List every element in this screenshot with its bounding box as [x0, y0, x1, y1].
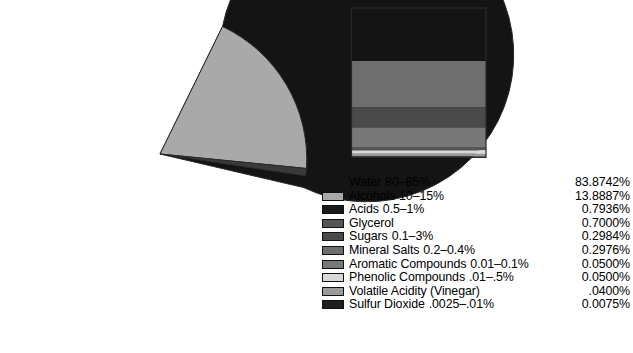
callout-band-volatile-acidity: [352, 154, 487, 157]
callout-detail-box: [352, 8, 487, 157]
legend-row[interactable]: Acids0.5–1% 0.7936%: [322, 203, 632, 217]
legend-value-volatile-acidity: .0400%: [589, 285, 630, 299]
callout-band-glycerol: [352, 61, 487, 108]
legend-value-aromatic-compounds: 0.0500%: [582, 258, 630, 272]
legend-swatch-volatile-acidity: [322, 287, 344, 296]
legend-label-acids: Acids0.5–1%: [349, 203, 424, 217]
legend-row[interactable]: Sulfur Dioxide.0025–.01% 0.0075%: [322, 298, 632, 312]
legend-value-acids: 0.7936%: [582, 203, 630, 217]
legend: Water80–85% 83.8742% Alcohols10–15% 13.8…: [322, 176, 632, 312]
legend-row[interactable]: Phenolic Compounds.01–.5% 0.0500%: [322, 271, 632, 285]
legend-label-alcohols: Alcohols10–15%: [349, 190, 444, 204]
legend-row[interactable]: Mineral Salts0.2–0.4% 0.2976%: [322, 244, 632, 258]
legend-swatch-mineral-salts: [322, 246, 344, 255]
callout-band-aromatic-compounds: [352, 147, 487, 150]
legend-value-phenolic-compounds: 0.0500%: [582, 271, 630, 285]
legend-label-mineral-salts: Mineral Salts0.2–0.4%: [349, 244, 475, 258]
legend-row[interactable]: Aromatic Compounds0.01–0.1% 0.0500%: [322, 258, 632, 272]
legend-row[interactable]: Water80–85% 83.8742%: [322, 176, 632, 190]
legend-label-water: Water80–85%: [349, 176, 430, 190]
legend-label-phenolic-compounds: Phenolic Compounds.01–.5%: [349, 271, 514, 285]
legend-row[interactable]: Alcohols10–15% 13.8887%: [322, 190, 632, 204]
legend-swatch-water: [322, 178, 344, 187]
legend-row[interactable]: Glycerol 0.7000%: [322, 217, 632, 231]
legend-label-aromatic-compounds: Aromatic Compounds0.01–0.1%: [349, 258, 529, 272]
callout-band-mineral-salts: [352, 128, 487, 148]
legend-value-sugars: 0.2984%: [582, 230, 630, 244]
legend-swatch-sulfur-dioxide: [322, 300, 344, 309]
legend-label-volatile-acidity: Volatile Acidity (Vinegar): [349, 285, 484, 299]
legend-value-water: 83.8742%: [575, 176, 630, 190]
legend-row[interactable]: Volatile Acidity (Vinegar) .0400%: [322, 285, 632, 299]
callout-band-phenolic-compounds: [352, 150, 487, 153]
wine-composition-figure: Water80–85% 83.8742% Alcohols10–15% 13.8…: [0, 0, 633, 353]
legend-label-glycerol: Glycerol: [349, 217, 398, 231]
legend-value-glycerol: 0.7000%: [582, 217, 630, 231]
callout-band-acids: [352, 8, 487, 61]
legend-label-sulfur-dioxide: Sulfur Dioxide.0025–.01%: [349, 298, 494, 312]
legend-label-sugars: Sugars0.1–3%: [349, 230, 433, 244]
legend-swatch-aromatic-compounds: [322, 260, 344, 269]
legend-swatch-sugars: [322, 232, 344, 241]
legend-swatch-glycerol: [322, 219, 344, 228]
callout-band-sugars: [352, 108, 487, 128]
legend-swatch-alcohols: [322, 192, 344, 201]
legend-value-mineral-salts: 0.2976%: [582, 244, 630, 258]
legend-swatch-acids: [322, 205, 344, 214]
legend-row[interactable]: Sugars0.1–3% 0.2984%: [322, 230, 632, 244]
legend-value-alcohols: 13.8887%: [575, 190, 630, 204]
legend-value-sulfur-dioxide: 0.0075%: [582, 298, 630, 312]
legend-swatch-phenolic-compounds: [322, 273, 344, 282]
